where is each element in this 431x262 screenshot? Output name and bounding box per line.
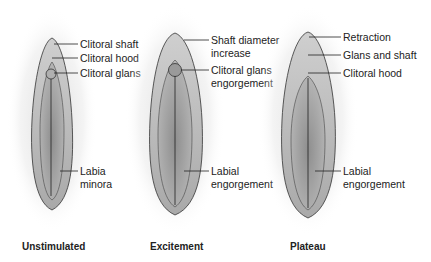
label-clitoral-shaft: Clitoral shaft [80, 38, 138, 50]
caption-unstimulated: Unstimulated [22, 241, 85, 252]
label-shaft-diameter: Shaft diameter [211, 34, 280, 46]
label-minora: minora [80, 178, 112, 190]
label-labial-engorgement: engorgement [343, 178, 405, 190]
label-clitoral-hood: Clitoral hood [343, 67, 402, 79]
label-increase: increase [211, 47, 251, 59]
caption-plateau: Plateau [290, 241, 326, 252]
label-labial-engorgement: engorgement [211, 178, 273, 190]
label-glans-and-shaft: Glans and shaft [343, 49, 417, 61]
label-labia: Labia [80, 165, 106, 177]
caption-excitement: Excitement [150, 241, 204, 252]
panel-excitement: Shaft diameter increase Clitoral glans e… [125, 5, 280, 252]
panel-unstimulated: Clitoral shaft Clitoral hood Clitoral gl… [7, 8, 141, 252]
label-labial: Labial [211, 165, 239, 177]
anatomy-diagram: Clitoral shaft Clitoral hood Clitoral gl… [0, 0, 431, 262]
glans-shape [169, 64, 182, 77]
glans-shape [46, 69, 56, 79]
label-clitoral-hood: Clitoral hood [80, 52, 139, 64]
label-labial: Labial [343, 165, 371, 177]
label-retraction: Retraction [343, 31, 391, 43]
panel-plateau: Retraction Glans and shaft Clitoral hood… [258, 5, 417, 252]
